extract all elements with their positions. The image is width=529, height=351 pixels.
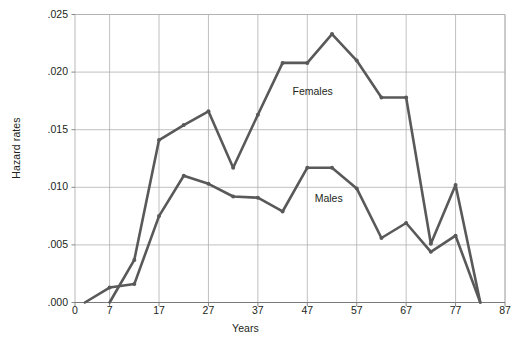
y-tick-label: .020 xyxy=(28,65,68,77)
data-point xyxy=(182,123,186,127)
data-point xyxy=(206,182,210,186)
y-tick-label: .015 xyxy=(28,123,68,135)
data-point xyxy=(157,138,161,142)
data-point xyxy=(429,242,433,246)
data-point xyxy=(108,286,112,290)
data-point xyxy=(281,209,285,213)
data-point xyxy=(379,95,383,99)
x-tick-label: 77 xyxy=(441,304,471,316)
data-point xyxy=(157,214,161,218)
data-point xyxy=(182,174,186,178)
data-point xyxy=(355,59,359,63)
data-point xyxy=(355,186,359,190)
x-tick-label: 67 xyxy=(391,304,421,316)
data-point xyxy=(281,61,285,65)
series-annotation-females: Females xyxy=(292,85,332,97)
data-point xyxy=(231,166,235,170)
data-point xyxy=(132,258,136,262)
data-point xyxy=(379,236,383,240)
data-point xyxy=(256,196,260,200)
hazard-rates-chart xyxy=(0,0,529,351)
data-point xyxy=(231,195,235,199)
x-tick-label: 0 xyxy=(60,304,90,316)
x-tick-label: 27 xyxy=(193,304,223,316)
data-point xyxy=(404,221,408,225)
data-point xyxy=(132,282,136,286)
data-point xyxy=(305,61,309,65)
y-tick-label: .025 xyxy=(28,8,68,20)
data-point xyxy=(429,250,433,254)
series-annotation-males: Males xyxy=(315,192,343,204)
data-point xyxy=(305,166,309,170)
data-point xyxy=(454,183,458,187)
data-point xyxy=(330,166,334,170)
data-point xyxy=(330,32,334,36)
x-tick-label: 17 xyxy=(144,304,174,316)
x-tick-label: 87 xyxy=(490,304,520,316)
data-point xyxy=(256,113,260,117)
data-point xyxy=(206,109,210,113)
x-tick-label: 7 xyxy=(95,304,125,316)
x-tick-label: 47 xyxy=(292,304,322,316)
chart-svg xyxy=(0,0,529,351)
x-tick-label: 37 xyxy=(243,304,273,316)
y-tick-label: .010 xyxy=(28,180,68,192)
y-tick-label: .005 xyxy=(28,238,68,250)
data-point xyxy=(404,95,408,99)
x-tick-label: 57 xyxy=(342,304,372,316)
plot-background xyxy=(75,15,505,303)
data-point xyxy=(454,234,458,238)
